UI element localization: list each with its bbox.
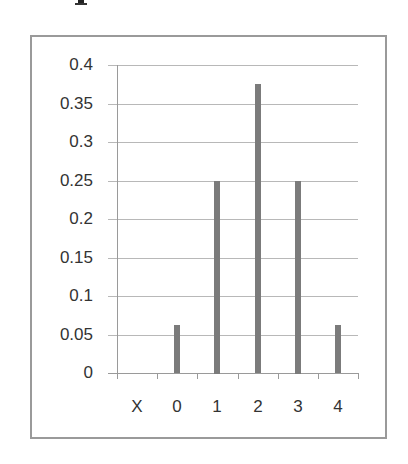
y-tick-label: 0.25 (33, 171, 93, 191)
x-tick-label: 4 (323, 397, 353, 417)
y-tick-label: 0.05 (33, 325, 93, 345)
gridline (108, 296, 358, 297)
y-tick-label: 0.4 (33, 55, 93, 75)
x-tick-mark (117, 373, 118, 379)
x-tick-mark (157, 373, 158, 379)
gridline (108, 219, 358, 220)
x-tick-mark (358, 373, 359, 379)
gridline (108, 258, 358, 259)
gridline (108, 335, 358, 336)
bar-chart: 00.050.10.150.20.250.30.350.4X01234 (0, 0, 408, 464)
y-tick-label: 0.1 (33, 286, 93, 306)
x-tick-mark (238, 373, 239, 379)
x-tick-mark (278, 373, 279, 379)
gridline (108, 104, 358, 105)
bar-0 (174, 325, 180, 373)
bar-1 (214, 181, 220, 374)
x-tick-label: 1 (202, 397, 232, 417)
y-tick-label: 0.15 (33, 248, 93, 268)
bar-2 (255, 84, 261, 373)
y-tick-label: 0.35 (33, 94, 93, 114)
bar-3 (295, 181, 301, 374)
x-tick-label: 3 (283, 397, 313, 417)
x-tick-mark (318, 373, 319, 379)
gridline (108, 142, 358, 143)
x-tick-mark (197, 373, 198, 379)
y-tick-label: 0.2 (33, 209, 93, 229)
x-axis-line (108, 373, 358, 374)
x-tick-label: 2 (243, 397, 273, 417)
y-axis-line (117, 65, 118, 373)
y-tick-label: 0.3 (33, 132, 93, 152)
x-tick-label: 0 (162, 397, 192, 417)
x-tick-label: X (122, 397, 152, 417)
gridline (108, 65, 358, 66)
gridline (108, 181, 358, 182)
bar-4 (335, 325, 341, 373)
y-tick-label: 0 (33, 363, 93, 383)
